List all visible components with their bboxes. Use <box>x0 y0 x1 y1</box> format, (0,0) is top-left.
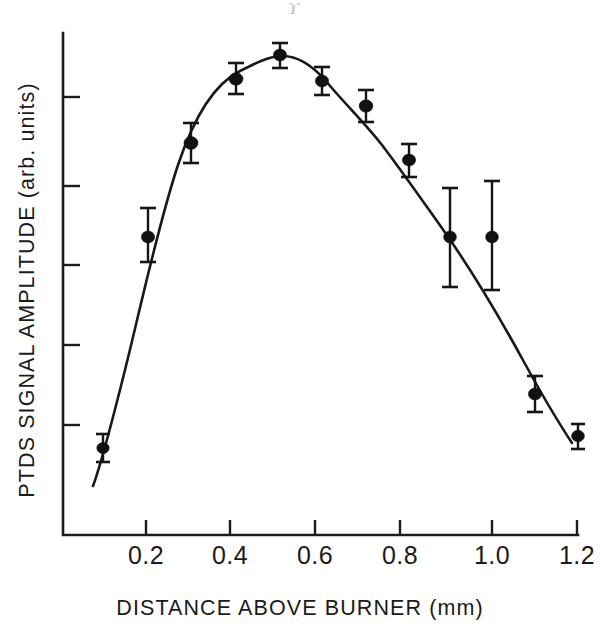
axis-lines <box>63 33 578 535</box>
x-tick-label-2: 0.6 <box>297 541 333 569</box>
figure-root: ϒ 0.2 0. <box>0 0 600 628</box>
x-tick-label-5: 1.2 <box>559 541 595 569</box>
x-tick-label-1: 0.4 <box>212 541 248 569</box>
data-point-6 <box>358 90 374 122</box>
data-point-4 <box>272 43 288 68</box>
x-tick-label-4: 1.0 <box>474 541 510 569</box>
marker-9 <box>486 231 499 243</box>
x-tick-labels: 0.2 0.4 0.6 0.8 1.0 1.2 <box>128 541 595 569</box>
data-point-10 <box>527 376 543 412</box>
marker-8 <box>444 231 457 243</box>
marker-7 <box>402 154 415 166</box>
marker-10 <box>528 388 541 400</box>
marker-11 <box>572 430 585 442</box>
marker-6 <box>359 100 373 112</box>
x-tick-label-0: 0.2 <box>128 541 164 569</box>
x-axis-title: DISTANCE ABOVE BURNER (mm) <box>116 596 483 620</box>
y-axis-ticks <box>63 97 80 425</box>
marker-1 <box>141 231 154 243</box>
marker-0 <box>97 442 109 453</box>
data-point-8 <box>442 188 458 287</box>
fitted-curve <box>93 56 572 486</box>
data-point-2 <box>183 123 199 163</box>
marker-4 <box>273 49 286 61</box>
chart-svg: ϒ 0.2 0. <box>0 0 600 628</box>
x-axis-ticks <box>146 520 577 535</box>
data-point-3 <box>228 63 244 94</box>
marker-5 <box>315 75 328 87</box>
data-point-9 <box>484 181 500 290</box>
y-axis-title: PTDS SIGNAL AMPLITUDE (arb. units) <box>15 82 39 497</box>
marker-2 <box>184 137 198 150</box>
scan-artifact-fragment: ϒ <box>288 0 301 18</box>
marker-3 <box>229 73 243 85</box>
data-point-11 <box>571 424 585 449</box>
x-tick-label-3: 0.8 <box>382 541 418 569</box>
